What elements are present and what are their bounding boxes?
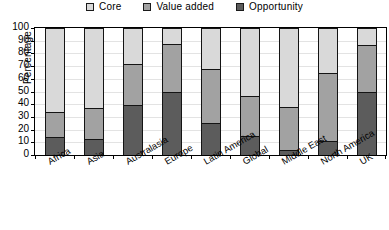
x-tickmark: [385, 155, 386, 159]
bar-segment-value-added[interactable]: [163, 44, 181, 92]
bar-segment-core[interactable]: [85, 29, 103, 108]
bar-group: [35, 28, 74, 155]
y-tick-label: 90: [18, 35, 29, 45]
y-tick-label: 10: [18, 136, 29, 146]
stacked-bar[interactable]: [45, 28, 65, 155]
x-axis-labels: AfricaAsiaAustralasiaEuropeLatin America…: [34, 156, 385, 230]
bar-segment-value-added[interactable]: [124, 64, 142, 104]
bar-segment-core[interactable]: [202, 29, 220, 69]
bar-segment-core[interactable]: [241, 29, 259, 96]
legend-swatch-icon-value-added: [143, 3, 151, 11]
y-tick-label: 20: [18, 124, 29, 134]
bar-segment-core[interactable]: [46, 29, 64, 112]
y-tick-label: 80: [18, 47, 29, 57]
bar-segment-value-added[interactable]: [319, 73, 337, 141]
stacked-bar[interactable]: [201, 28, 221, 155]
stacked-bar[interactable]: [123, 28, 143, 155]
bar-segment-core[interactable]: [319, 29, 337, 73]
y-tick-label: 100: [12, 22, 29, 32]
bar-segment-core[interactable]: [124, 29, 142, 64]
legend-item-value-added: Value added: [143, 2, 214, 12]
bar-segment-core[interactable]: [280, 29, 298, 107]
chart-legend: Core Value added Opportunity: [0, 2, 389, 12]
y-tick-label: 50: [18, 86, 29, 96]
legend-swatch-icon-opportunity: [236, 3, 244, 11]
bar-group: [269, 28, 308, 155]
plot-area: [34, 27, 387, 156]
legend-label-core: Core: [99, 2, 121, 12]
y-tick-label: 60: [18, 73, 29, 83]
bar-segment-value-added[interactable]: [280, 107, 298, 150]
y-tick-label: 30: [18, 111, 29, 121]
bar-group: [74, 28, 113, 155]
bar-segment-value-added[interactable]: [46, 112, 64, 137]
bar-segment-core[interactable]: [163, 29, 181, 44]
y-tick-label: 40: [18, 98, 29, 108]
legend-item-opportunity: Opportunity: [236, 2, 303, 12]
stacked-bar[interactable]: [279, 28, 299, 155]
bar-segment-value-added[interactable]: [85, 108, 103, 138]
legend-label-value-added: Value added: [156, 2, 214, 12]
y-tick-label: 0: [23, 149, 29, 159]
y-axis-ticks: 1009080706050403020100: [0, 22, 33, 159]
stacked-bar[interactable]: [84, 28, 104, 155]
bar-segment-value-added[interactable]: [202, 69, 220, 123]
legend-label-opportunity: Opportunity: [249, 2, 303, 12]
bar-group: [191, 28, 230, 155]
y-tick-label: 70: [18, 60, 29, 70]
bar-series-container: [35, 28, 386, 155]
bar-segment-value-added[interactable]: [358, 45, 376, 92]
stacked-bar-chart: Core Value added Opportunity Percentage …: [0, 0, 389, 230]
legend-swatch-icon-core: [86, 3, 94, 11]
bar-segment-core[interactable]: [358, 29, 376, 45]
legend-item-core: Core: [86, 2, 121, 12]
bar-group: [113, 28, 152, 155]
